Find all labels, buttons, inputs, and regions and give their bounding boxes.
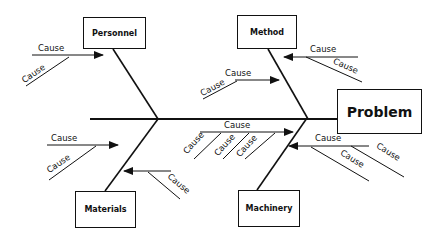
problem-label: Problem bbox=[347, 104, 413, 120]
cause-label: Cause bbox=[51, 134, 77, 143]
category-box-materials: Materials bbox=[75, 191, 136, 228]
category-box-method: Method bbox=[237, 15, 297, 49]
cause-label: Cause bbox=[224, 121, 250, 130]
category-label: Machinery bbox=[246, 204, 293, 213]
cause-label: Cause bbox=[38, 44, 64, 53]
cause-label: Cause bbox=[315, 134, 341, 143]
cause-label: Cause bbox=[310, 45, 336, 54]
category-label: Materials bbox=[84, 205, 126, 214]
category-box-personnel: Personnel bbox=[83, 17, 146, 49]
category-label: Method bbox=[250, 28, 284, 37]
category-box-machinery: Machinery bbox=[238, 190, 300, 227]
category-label: Personnel bbox=[92, 29, 137, 38]
cause-label: Cause bbox=[225, 69, 251, 78]
problem-box: Problem bbox=[337, 89, 422, 134]
